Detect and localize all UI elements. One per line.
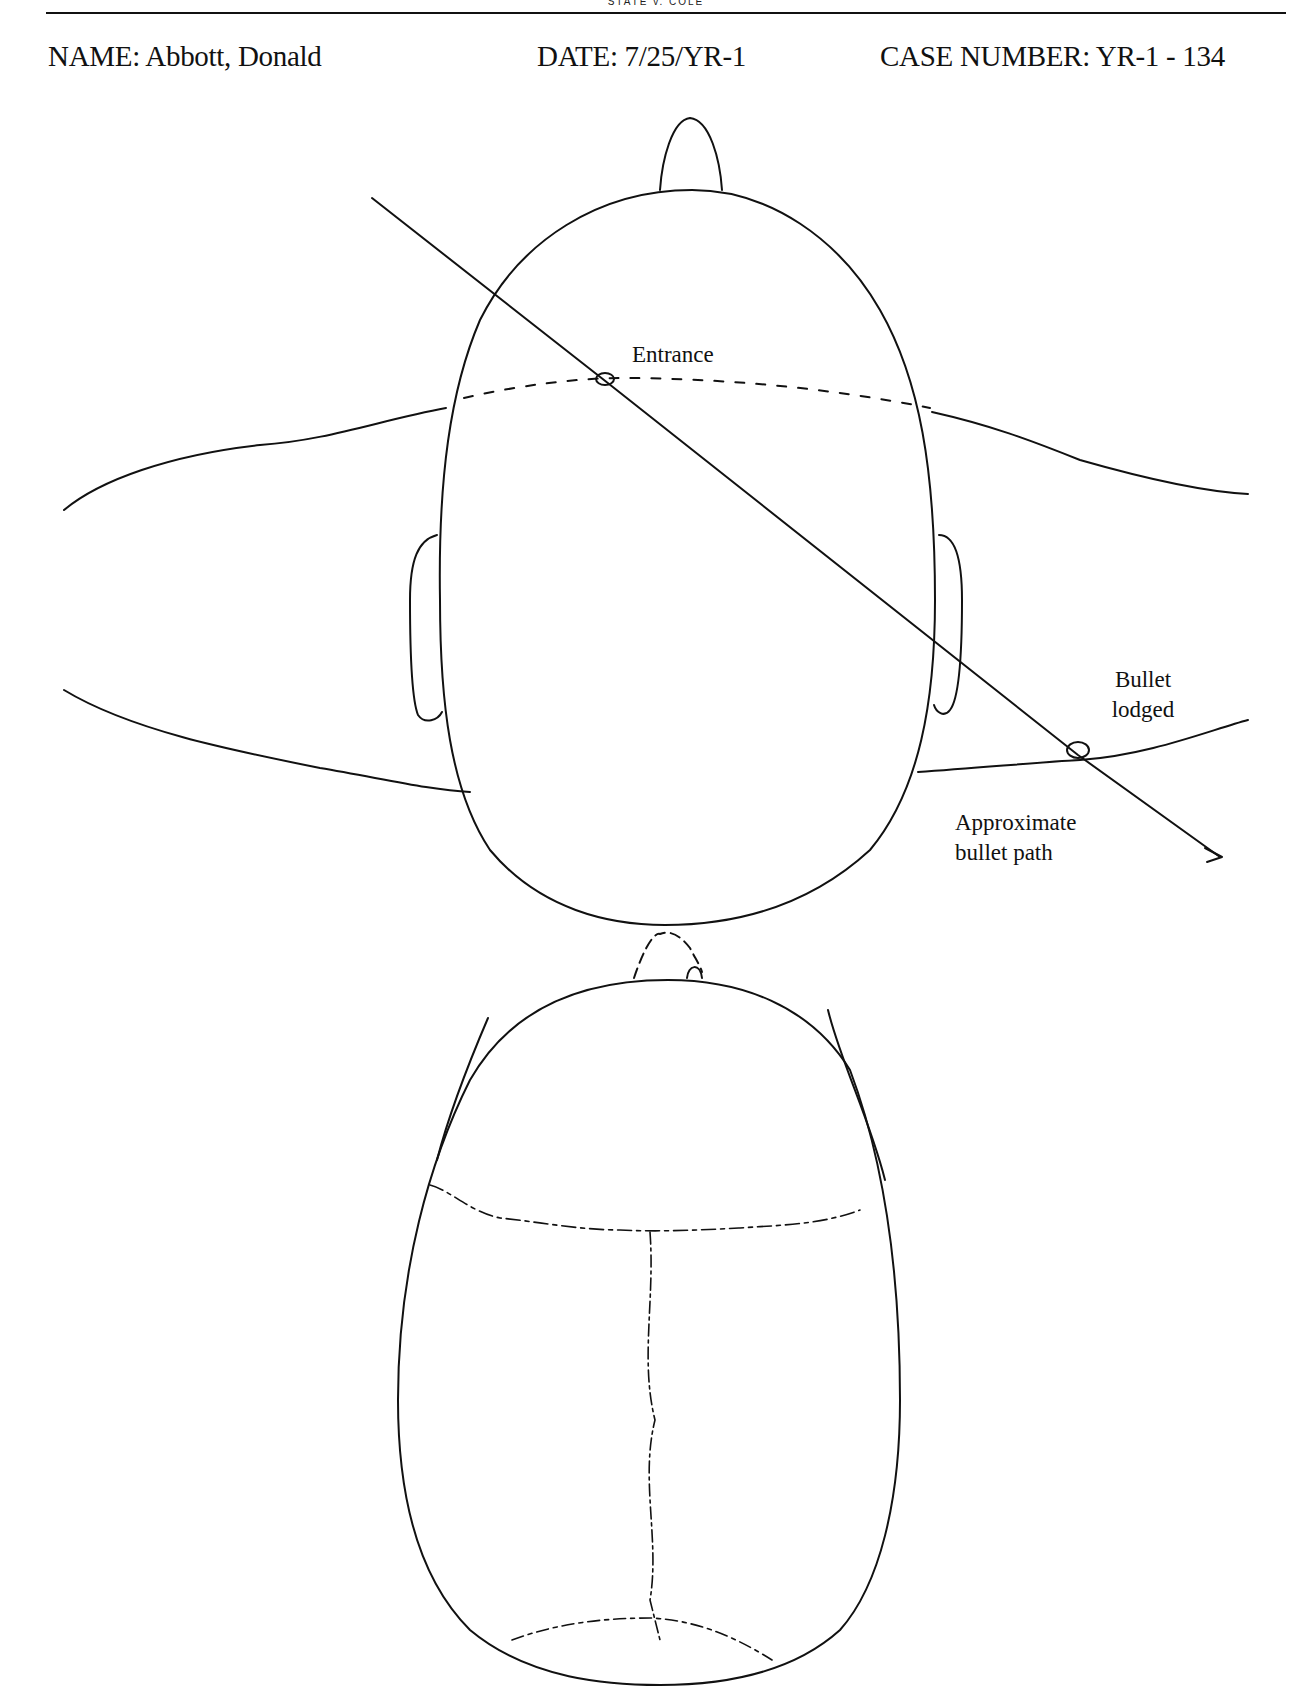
right-shoulder-upper (932, 412, 1248, 494)
nose (660, 118, 722, 190)
sagittal-suture (648, 1232, 660, 1640)
entrance-label: Entrance (632, 340, 714, 370)
right-shoulder-lower (918, 720, 1248, 772)
head-top-view (64, 118, 1248, 925)
coronal-suture (430, 1185, 860, 1231)
head-outline (440, 190, 935, 925)
bullet-path-line2: bullet path (955, 838, 1076, 868)
bullet-path-label: Approximate bullet path (955, 808, 1076, 868)
left-shoulder-upper (64, 408, 446, 510)
right-ear (934, 535, 962, 714)
bullet-lodged-label: Bullet lodged (1103, 665, 1183, 725)
bullet-path-line1: Approximate (955, 808, 1076, 838)
bullet-lodged-line2: lodged (1103, 695, 1183, 725)
skull-right-zygomatic (828, 1010, 885, 1180)
skull-nasal-bones (634, 933, 702, 978)
bullet-lodged-line1: Bullet (1103, 665, 1183, 695)
skull-nasal-tip (687, 967, 702, 978)
lambdoid-suture (512, 1618, 772, 1660)
left-ear (410, 535, 442, 721)
left-shoulder-lower (64, 690, 470, 792)
dashed-plane-line (464, 378, 930, 408)
bullet-path-arrowhead (1205, 848, 1222, 862)
skull-top-view (398, 933, 900, 1685)
